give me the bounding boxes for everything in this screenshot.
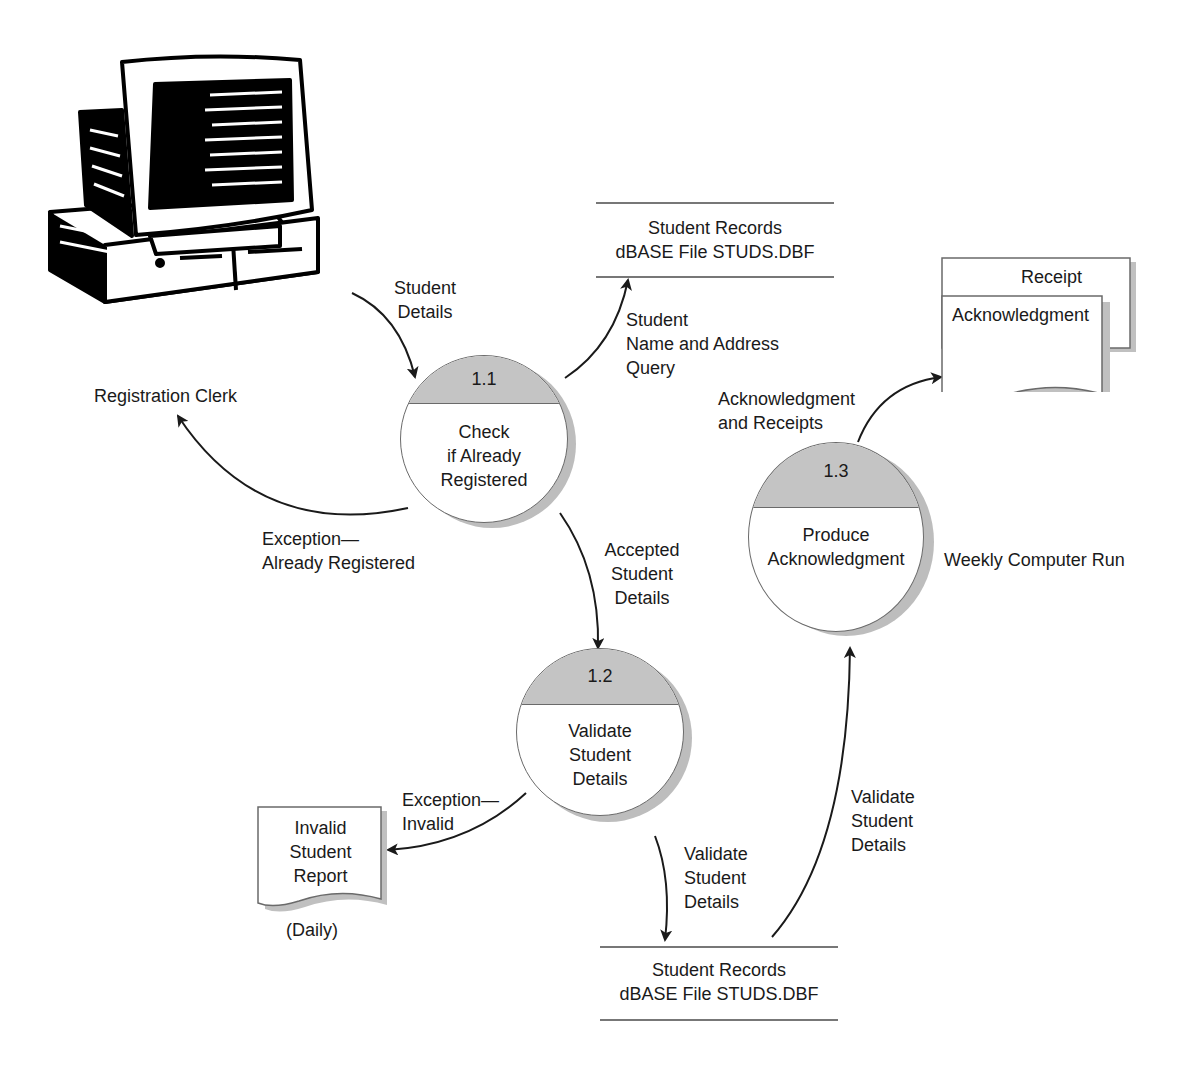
process-label: Validate Student Details [517,719,683,791]
computer-icon [0,40,340,340]
data-store-bottom-border [596,276,834,278]
external-entity-label: Registration Clerk [94,384,237,408]
flow-label-student-details: Student Details [380,276,470,324]
flow-name-address-query [565,280,628,378]
weekly-run-annotation: Weekly Computer Run [944,548,1125,572]
flow-label-accepted: Accepted Student Details [594,538,690,610]
data-store-bottom-border [600,1019,838,1021]
flow-ack-receipts [858,377,941,442]
process-id: 1.2 [517,649,683,705]
invalid-report-label: Invalid Student Report [258,816,383,888]
flow-label-exception-registered: Exception— Already Registered [262,527,415,575]
flow-store-to-produce [772,648,850,937]
flow-label-exception-invalid: Exception— Invalid [402,788,499,836]
flow-label-store-to-produce: Validate Student Details [851,785,915,857]
flow-label-validate-to-store: Validate Student Details [684,842,748,914]
data-store-top-border [596,202,834,204]
report-frequency: (Daily) [286,918,338,942]
receipt-document: Receipt [1021,265,1082,289]
process-id: 1.1 [401,356,567,404]
process-1-3[interactable]: 1.3 Produce Acknowledgment [748,442,924,632]
flow-exception-registered [178,416,408,515]
process-label: Check if Already Registered [401,420,567,492]
acknowledgment-document: Acknowledgment [952,303,1089,327]
process-1-2[interactable]: 1.2 Validate Student Details [516,648,684,816]
data-flow-diagram: Registration Clerk 1.1 Check if Already … [0,0,1197,1073]
data-store-top-border [600,946,838,948]
flow-label-query: Student Name and Address Query [626,308,779,380]
data-store-1[interactable]: Student Records dBASE File STUDS.DBF [596,216,834,264]
data-store-2[interactable]: Student Records dBASE File STUDS.DBF [600,958,838,1006]
flow-validate-to-store [655,836,667,940]
flow-label-ack-receipts: Acknowledgment and Receipts [718,387,855,435]
process-label: Produce Acknowledgment [749,523,923,571]
process-1-1[interactable]: 1.1 Check if Already Registered [400,355,568,523]
flow-accepted-details [560,513,598,648]
process-id: 1.3 [749,443,923,508]
